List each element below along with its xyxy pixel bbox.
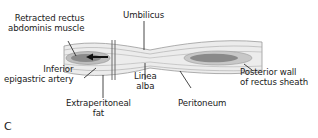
- label-retracted-rectus: Retracted rectus abdominis muscle: [8, 14, 84, 33]
- abdominal-wall-cross-section-figure: Retracted rectus abdominis muscle Umbili…: [0, 0, 318, 138]
- label-posterior-wall-rectus-sheath: Posterior wall of rectus sheath: [240, 68, 308, 87]
- label-linea-alba: Linea alba: [134, 72, 157, 91]
- label-inferior-epigastric-artery: Inferior epigastric artery: [4, 65, 73, 84]
- label-umbilicus: Umbilicus: [123, 11, 164, 21]
- panel-label: C: [4, 120, 12, 133]
- label-extraperitoneal-fat: Extraperitoneal fat: [66, 99, 131, 118]
- label-peritoneum: Peritoneum: [178, 99, 226, 109]
